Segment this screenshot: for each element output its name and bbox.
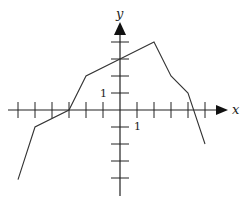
function-curve — [18, 42, 205, 180]
y-axis-label: y — [115, 6, 124, 21]
y-axis-arrow-icon — [114, 22, 126, 35]
x-axis-arrow-icon — [216, 105, 228, 115]
function-graph: x y 1 1 — [0, 0, 245, 200]
x-axis-label: x — [232, 102, 240, 117]
y-unit-label: 1 — [100, 87, 107, 100]
x-unit-label: 1 — [134, 120, 141, 133]
